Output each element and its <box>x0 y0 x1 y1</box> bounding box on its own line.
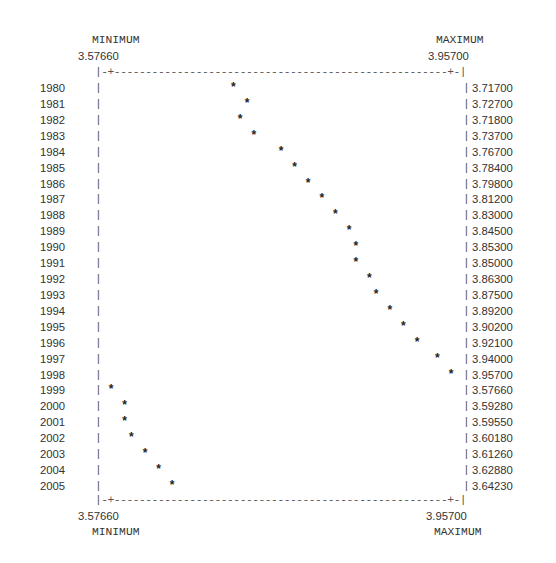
value-label: 3.78400 <box>472 162 513 174</box>
value-label: 3.87500 <box>472 289 513 301</box>
year-label: 1992 <box>40 273 65 285</box>
left-axis-bar: | <box>95 130 102 142</box>
data-point-marker: * <box>413 336 420 350</box>
value-label: 3.76700 <box>472 146 513 158</box>
left-axis-bar: | <box>95 464 102 476</box>
year-label: 1999 <box>40 384 65 396</box>
year-label: 1998 <box>40 369 65 381</box>
left-axis-bar: | <box>95 225 102 237</box>
left-axis-bar: | <box>95 305 102 317</box>
value-label: 3.84500 <box>472 225 513 237</box>
year-label: 2001 <box>40 416 65 428</box>
left-axis-bar: | <box>95 193 102 205</box>
top-max-label: MAXIMUM <box>436 34 483 46</box>
data-point-marker: * <box>230 81 237 95</box>
data-point-marker: * <box>243 97 250 111</box>
year-label: 1995 <box>40 321 65 333</box>
data-point-marker: * <box>373 288 380 302</box>
bottom-axis-border: |-+-------------------------------------… <box>95 494 466 506</box>
left-axis-bar: | <box>95 162 102 174</box>
data-point-marker: * <box>366 272 373 286</box>
data-point-marker: * <box>318 192 325 206</box>
data-point-marker: * <box>305 177 312 191</box>
value-label: 3.62880 <box>472 464 513 476</box>
right-axis-bar: | <box>463 480 470 492</box>
data-point-marker: * <box>121 399 128 413</box>
year-label: 1991 <box>40 257 65 269</box>
value-label: 3.85000 <box>472 257 513 269</box>
data-point-marker: * <box>332 208 339 222</box>
right-axis-bar: | <box>463 193 470 205</box>
left-axis-bar: | <box>95 448 102 460</box>
value-label: 3.92100 <box>472 337 513 349</box>
value-label: 3.81200 <box>472 193 513 205</box>
data-point-marker: * <box>352 256 359 270</box>
right-axis-bar: | <box>463 400 470 412</box>
value-label: 3.57660 <box>472 384 513 396</box>
data-point-marker: * <box>447 368 454 382</box>
year-label: 1984 <box>40 146 65 158</box>
data-point-marker: * <box>386 304 393 318</box>
data-point-marker: * <box>345 224 352 238</box>
right-axis-bar: | <box>463 369 470 381</box>
right-axis-bar: | <box>463 146 470 158</box>
value-label: 3.89200 <box>472 305 513 317</box>
right-axis-bar: | <box>463 225 470 237</box>
year-label: 1987 <box>40 193 65 205</box>
right-axis-bar: | <box>463 257 470 269</box>
left-axis-bar: | <box>95 241 102 253</box>
right-axis-bar: | <box>463 98 470 110</box>
year-label: 1985 <box>40 162 65 174</box>
year-label: 2004 <box>40 464 65 476</box>
year-label: 1982 <box>40 114 65 126</box>
value-label: 3.79800 <box>472 178 513 190</box>
year-label: 1980 <box>40 82 65 94</box>
year-label: 1997 <box>40 353 65 365</box>
left-axis-bar: | <box>95 369 102 381</box>
year-label: 1988 <box>40 209 65 221</box>
year-label: 1994 <box>40 305 65 317</box>
right-axis-bar: | <box>463 273 470 285</box>
data-point-marker: * <box>121 415 128 429</box>
data-point-marker: * <box>141 447 148 461</box>
data-point-marker: * <box>169 479 176 493</box>
value-label: 3.59550 <box>472 416 513 428</box>
right-axis-bar: | <box>463 384 470 396</box>
left-axis-bar: | <box>95 353 102 365</box>
data-point-marker: * <box>237 113 244 127</box>
year-label: 2005 <box>40 480 65 492</box>
value-label: 3.94000 <box>472 353 513 365</box>
year-label: 1986 <box>40 178 65 190</box>
right-axis-bar: | <box>463 162 470 174</box>
right-axis-bar: | <box>463 114 470 126</box>
right-axis-bar: | <box>463 337 470 349</box>
right-axis-bar: | <box>463 209 470 221</box>
data-point-marker: * <box>291 161 298 175</box>
value-label: 3.73700 <box>472 130 513 142</box>
right-axis-bar: | <box>463 432 470 444</box>
left-axis-bar: | <box>95 480 102 492</box>
right-axis-bar: | <box>463 448 470 460</box>
right-axis-bar: | <box>463 464 470 476</box>
left-axis-bar: | <box>95 146 102 158</box>
year-label: 1993 <box>40 289 65 301</box>
left-axis-bar: | <box>95 98 102 110</box>
top-min-label: MINIMUM <box>92 34 139 46</box>
left-axis-bar: | <box>95 289 102 301</box>
top-min-value: 3.57660 <box>78 50 119 62</box>
bottom-min-label: MINIMUM <box>92 526 139 538</box>
right-axis-bar: | <box>463 130 470 142</box>
year-label: 1983 <box>40 130 65 142</box>
year-label: 1989 <box>40 225 65 237</box>
value-label: 3.72700 <box>472 98 513 110</box>
value-label: 3.85300 <box>472 241 513 253</box>
year-label: 2002 <box>40 432 65 444</box>
top-axis-border: |-+-------------------------------------… <box>95 66 466 78</box>
right-axis-bar: | <box>463 289 470 301</box>
left-axis-bar: | <box>95 178 102 190</box>
year-label: 2000 <box>40 400 65 412</box>
left-axis-bar: | <box>95 257 102 269</box>
year-label: 2003 <box>40 448 65 460</box>
value-label: 3.61260 <box>472 448 513 460</box>
left-axis-bar: | <box>95 432 102 444</box>
